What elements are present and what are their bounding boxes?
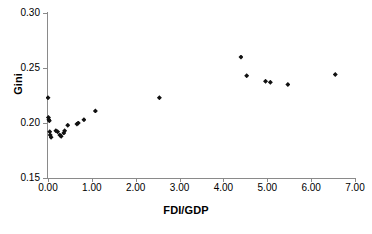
x-tick-label: 2.00 [116,183,156,193]
y-tick-label: 0.20 [0,118,40,128]
x-tick-label: 1.00 [72,183,112,193]
scatter-chart-figure: 0.150.200.250.30 0.001.002.003.004.005.0… [0,0,372,234]
x-tick-label: 7.00 [335,183,372,193]
y-tick-mark [43,68,48,69]
x-axis-title: FDI/GDP [0,204,372,216]
y-tick-mark [43,123,48,124]
x-axis-line [47,178,356,179]
y-axis-title: Gini [12,54,24,114]
x-tick-label: 5.00 [247,183,287,193]
x-tick-label: 0.00 [28,183,68,193]
y-tick-label: 0.15 [0,173,40,183]
x-tick-label: 3.00 [160,183,200,193]
x-tick-label: 4.00 [203,183,243,193]
plot-area [48,13,355,178]
y-tick-mark [43,13,48,14]
x-tick-label: 6.00 [291,183,331,193]
y-tick-label: 0.30 [0,8,40,18]
